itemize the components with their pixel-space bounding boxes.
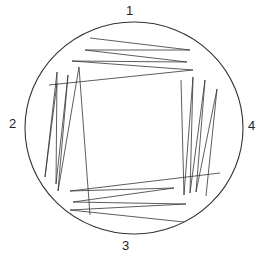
streak-quadrant-4 xyxy=(181,77,217,196)
quadrant-label-3: 3 xyxy=(122,239,129,252)
petri-dish-outline xyxy=(25,22,243,234)
quadrant-label-2: 2 xyxy=(9,117,16,130)
quadrant-label-4: 4 xyxy=(248,119,255,132)
diagram-canvas xyxy=(0,0,268,261)
streak-quadrant-2 xyxy=(45,67,90,215)
streak-quadrant-1 xyxy=(49,38,193,85)
quadrant-label-1: 1 xyxy=(126,4,133,17)
